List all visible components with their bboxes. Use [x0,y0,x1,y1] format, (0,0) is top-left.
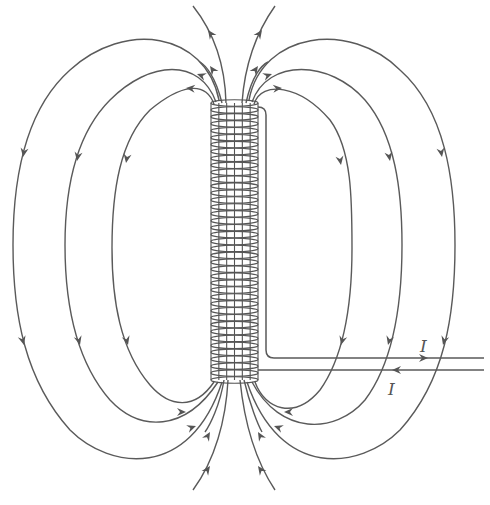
lead-wires [258,107,484,374]
axial-field-lines-top [193,6,275,103]
solenoid-field-diagram: I I [0,0,490,505]
field-line-right-inner [254,89,352,408]
field-line-left-outer [13,39,222,458]
current-label-bottom: I [387,379,395,399]
field-line-left-inner [112,88,214,402]
left-field-loops [13,39,222,458]
current-label-top: I [419,336,427,356]
field-line-right-middle [252,70,402,425]
field-line-left-middle [65,70,218,423]
right-field-loops [247,39,455,458]
field-line-right-outer [247,39,455,458]
solenoid-coil [211,100,258,383]
